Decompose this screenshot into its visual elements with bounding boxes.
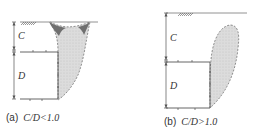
panel-a-dim-d: D	[18, 70, 25, 81]
ground-hatch-icon	[178, 13, 193, 16]
tunnel-outline	[20, 52, 58, 99]
failure-zone	[210, 25, 239, 108]
panel-b-caption: (b)C/D>1.0	[164, 116, 217, 127]
panel-b-dim-c: C	[170, 32, 177, 43]
tunnel-support-marks	[29, 50, 58, 100]
panel-b-diagram	[164, 13, 247, 110]
panel-a-caption-math: C/D<1.0	[23, 112, 59, 123]
ground-hatch-icon	[21, 22, 36, 25]
tunnel-support-marks	[177, 60, 210, 109]
panel-a-dim-c: C	[18, 30, 25, 41]
panel-a-caption-label: (a)	[6, 112, 18, 123]
panel-b-caption-label: (b)	[164, 116, 176, 127]
panel-b-dim-d: D	[170, 80, 177, 91]
panel-b-caption-math: C/D>1.0	[181, 116, 217, 127]
panel-a-caption: (a)C/D<1.0	[6, 112, 59, 123]
